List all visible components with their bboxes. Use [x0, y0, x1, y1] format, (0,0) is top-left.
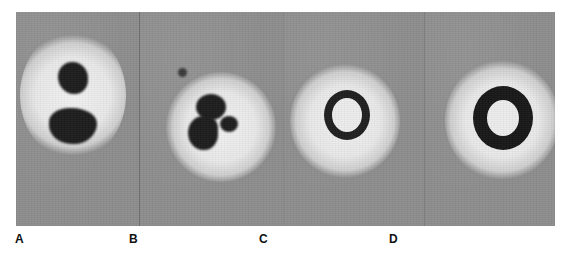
thin-ring-cell [324, 90, 370, 140]
panel-label-d: D [389, 232, 398, 246]
cell-lobe [220, 116, 238, 132]
cell-lobe [188, 116, 218, 150]
panel-label-c: C [259, 232, 268, 246]
panel-b-image [140, 12, 283, 226]
panel-c-image [284, 12, 424, 226]
small-particle [178, 68, 187, 77]
panel-a-image [16, 12, 139, 226]
panel-label-a: A [15, 232, 24, 246]
micrograph-figure [16, 12, 555, 226]
panel-label-b: B [129, 232, 138, 246]
thick-ring-cell [473, 86, 533, 150]
panel-d-image [425, 12, 555, 226]
upper-nucleus [58, 62, 88, 94]
